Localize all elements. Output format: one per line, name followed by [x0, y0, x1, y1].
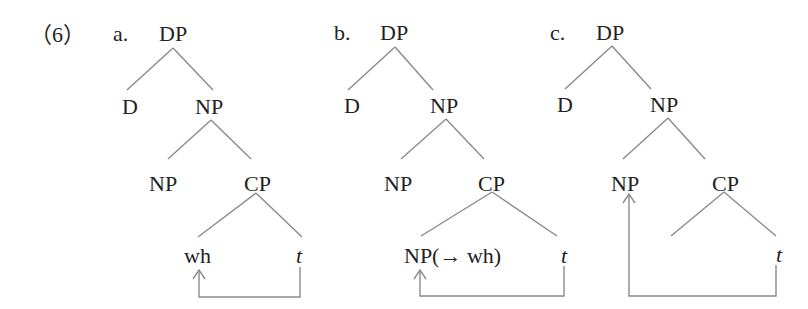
tree-a-d: D — [122, 96, 138, 118]
tree-b-np-wh: NP(→ wh) — [404, 245, 501, 267]
tree-b-label: b. — [334, 22, 351, 44]
tree-c-np-inner: NP — [611, 173, 639, 195]
tree-b-np: NP — [430, 95, 458, 117]
tree-c-dp: DP — [596, 22, 624, 44]
tree-b-d: D — [344, 95, 360, 117]
tree-c-trace: t — [776, 244, 782, 266]
tree-b-np-inner: NP — [384, 173, 412, 195]
tree-b-dp: DP — [380, 22, 408, 44]
syntax-tree-figure: （6） a. DP D NP NP CP wh t b. DP D NP NP … — [0, 0, 808, 309]
tree-c-np: NP — [650, 94, 678, 116]
tree-a-wh: wh — [184, 245, 211, 267]
tree-c-label: c. — [550, 22, 565, 44]
example-number: （6） — [30, 24, 85, 46]
tree-a-label: a. — [113, 23, 128, 45]
tree-a-trace: t — [296, 245, 302, 267]
tree-b-trace: t — [561, 245, 567, 267]
tree-a-cp: CP — [244, 173, 271, 195]
tree-c-cp: CP — [712, 173, 739, 195]
tree-a-dp: DP — [159, 23, 187, 45]
tree-b-cp: CP — [478, 173, 505, 195]
tree-c-d: D — [557, 94, 573, 116]
tree-a-np-inner: NP — [149, 173, 177, 195]
tree-a-np: NP — [195, 96, 223, 118]
